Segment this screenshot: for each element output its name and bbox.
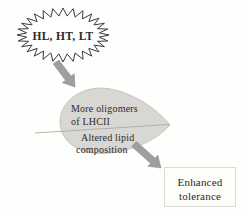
diagram-canvas: HL, HT, LT More oligomers of LHCII Alter… <box>0 0 244 211</box>
arrow-down-right-icon-2 <box>132 141 161 168</box>
leaf-text-oligomers-line1: More oligomers <box>71 103 138 114</box>
stress-conditions-label: HL, HT, LT <box>32 30 93 42</box>
arrow-down-right-icon <box>53 60 75 87</box>
outcome-text-line1: Enhanced <box>178 176 223 188</box>
leaf-text-lipid-line1: Altered lipid <box>81 132 134 143</box>
diagram-stage: HL, HT, LT More oligomers of LHCII Alter… <box>0 0 244 211</box>
outcome-text-line2: tolerance <box>179 190 221 202</box>
leaf-text-oligomers-line2: of LHCII <box>71 116 110 127</box>
leaf-text-lipid-line2: composition <box>76 144 128 155</box>
